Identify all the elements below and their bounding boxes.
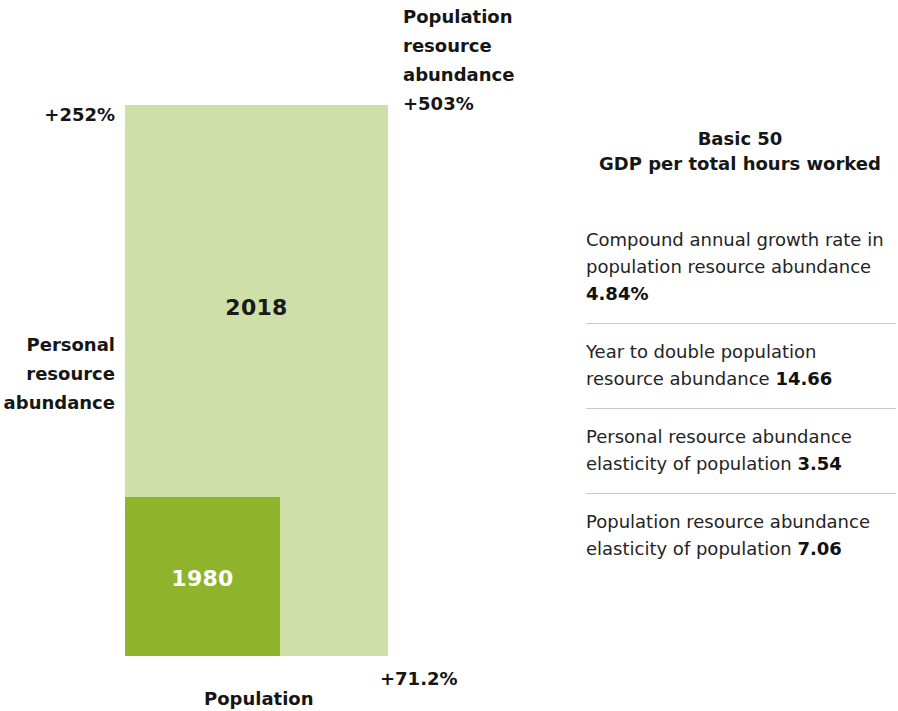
stat-item: Year to double population resource abund… bbox=[586, 323, 896, 408]
stats-list: Compound annual growth rate in populatio… bbox=[586, 226, 896, 578]
population-resource-abundance-label: Population resource abundance +503% bbox=[403, 2, 553, 118]
stat-value: 3.54 bbox=[797, 453, 841, 474]
left-axis-line-1: Personal bbox=[27, 334, 116, 355]
top-right-line-2: resource bbox=[403, 35, 492, 56]
personal-resource-abundance-label: Personal resource abundance bbox=[0, 330, 115, 417]
stat-value: 7.06 bbox=[797, 538, 841, 559]
panel-title-line-1: Basic 50 bbox=[584, 126, 896, 151]
infographic-stage: 2018 1980 +252% Personal resource abunda… bbox=[0, 0, 898, 711]
stat-text: Compound annual growth rate in populatio… bbox=[586, 229, 884, 277]
stats-panel: Basic 50 GDP per total hours worked Comp… bbox=[584, 0, 896, 711]
top-right-line-1: Population bbox=[403, 6, 513, 27]
stat-value: 4.84% bbox=[586, 283, 648, 304]
nested-rectangle-chart: 2018 1980 +252% Personal resource abunda… bbox=[0, 0, 560, 711]
population-growth-value: +71.2% bbox=[380, 668, 458, 690]
stat-value: 14.66 bbox=[775, 368, 832, 389]
rect-1980-label: 1980 bbox=[125, 566, 280, 591]
panel-title-line-2: GDP per total hours worked bbox=[584, 151, 896, 176]
population-axis-label: Population bbox=[204, 688, 314, 710]
panel-title: Basic 50 GDP per total hours worked bbox=[584, 126, 896, 176]
personal-resource-abundance-value: +252% bbox=[0, 104, 115, 126]
top-right-line-3: abundance bbox=[403, 64, 514, 85]
rect-2018-label: 2018 bbox=[125, 295, 388, 320]
left-axis-line-3: abundance bbox=[4, 392, 115, 413]
stat-item: Personal resource abundance elasticity o… bbox=[586, 408, 896, 493]
stat-item: Compound annual growth rate in populatio… bbox=[586, 226, 896, 323]
left-axis-line-2: resource bbox=[26, 363, 115, 384]
stat-item: Population resource abundance elasticity… bbox=[586, 493, 896, 578]
population-resource-abundance-value: +503% bbox=[403, 93, 474, 114]
